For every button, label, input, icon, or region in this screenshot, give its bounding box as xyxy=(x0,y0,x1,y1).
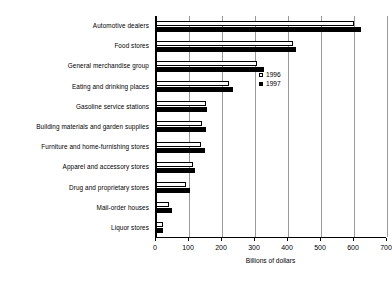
bar-1997 xyxy=(156,67,264,72)
tick-label-200: 200 xyxy=(215,243,227,252)
tick-mark-200 xyxy=(221,238,222,241)
tick-mark-400 xyxy=(287,238,288,241)
category-axis-labels: Automotive dealersFood storesGeneral mer… xyxy=(0,16,152,238)
category-label: Drug and proprietary stores xyxy=(0,184,149,192)
bar-group xyxy=(156,218,386,238)
bar-1997 xyxy=(156,148,205,153)
category-label: General merchandise group xyxy=(0,62,149,70)
tick-mark-600 xyxy=(353,238,354,241)
category-label: Mail-order houses xyxy=(0,204,149,212)
plot-area xyxy=(155,16,386,238)
bar-1996 xyxy=(156,121,202,126)
bar-1997 xyxy=(156,107,207,112)
legend-swatch-hollow-square-icon xyxy=(259,73,263,77)
tick-mark-100 xyxy=(188,238,189,241)
bar-1997 xyxy=(156,188,190,193)
tick-mark-300 xyxy=(254,238,255,241)
category-label: Eating and drinking places xyxy=(0,83,149,91)
category-label: Apparel and accessory stores xyxy=(0,163,149,171)
bar-1996 xyxy=(156,162,193,167)
legend-entry-1996: 1996 xyxy=(259,70,281,79)
bar-group xyxy=(156,117,386,137)
tick-label-600: 600 xyxy=(347,243,359,252)
x-axis-title: Billions of dollars xyxy=(155,256,386,265)
bar-group xyxy=(156,36,386,56)
tick-label-100: 100 xyxy=(182,243,194,252)
bar-1997 xyxy=(156,127,206,132)
bar-group xyxy=(156,137,386,157)
bar-1997 xyxy=(156,228,163,233)
bar-1996 xyxy=(156,142,201,147)
x-axis-tick-marks xyxy=(155,238,386,242)
tick-label-700: 700 xyxy=(380,243,392,252)
x-axis-tick-labels: 0100200300400500600700 xyxy=(155,243,386,253)
category-label: Building materials and garden supplies xyxy=(0,123,149,131)
bar-group xyxy=(156,157,386,177)
category-label: Automotive dealers xyxy=(0,22,149,30)
bar-1997 xyxy=(156,168,195,173)
legend-swatch-filled-square-icon xyxy=(259,82,263,86)
category-label: Gasoline service stations xyxy=(0,103,149,111)
bar-group xyxy=(156,177,386,197)
bar-1996 xyxy=(156,21,354,26)
bar-1996 xyxy=(156,182,186,187)
bar-1997 xyxy=(156,27,361,32)
category-label: Furniture and home-furnishing stores xyxy=(0,143,149,151)
bar-group xyxy=(156,198,386,218)
legend-label-1996: 1996 xyxy=(266,70,281,79)
category-label: Liquor stores xyxy=(0,224,149,232)
bar-1996 xyxy=(156,81,229,86)
bar-1996 xyxy=(156,61,257,66)
legend-entry-1997: 1997 xyxy=(259,79,281,88)
tick-label-0: 0 xyxy=(153,243,157,252)
bar-1997 xyxy=(156,47,296,52)
legend-label-1997: 1997 xyxy=(266,79,281,88)
tick-mark-700 xyxy=(386,238,387,241)
tick-label-300: 300 xyxy=(248,243,260,252)
legend: 1996 1997 xyxy=(259,70,281,88)
category-label: Food stores xyxy=(0,42,149,50)
bar-1996 xyxy=(156,202,169,207)
tick-label-500: 500 xyxy=(314,243,326,252)
bar-1996 xyxy=(156,222,163,227)
bar-1997 xyxy=(156,208,172,213)
tick-mark-0 xyxy=(155,238,156,241)
bar-1997 xyxy=(156,87,233,92)
gridline-700 xyxy=(387,16,388,237)
bar-1996 xyxy=(156,41,293,46)
tick-mark-500 xyxy=(320,238,321,241)
bar-1996 xyxy=(156,101,206,106)
bar-group xyxy=(156,97,386,117)
tick-label-400: 400 xyxy=(281,243,293,252)
bar-group xyxy=(156,16,386,36)
bar-rows xyxy=(156,16,386,237)
